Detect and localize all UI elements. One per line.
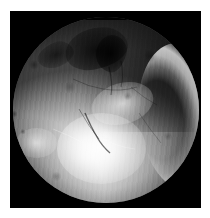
dark-fissure-cluster [62,23,131,73]
dark-crevice-left [33,36,77,72]
crescent-glare [130,38,198,196]
tissue-base-layer [13,17,199,203]
tissue-mottling [13,17,199,203]
top-rim-shadow [13,17,199,69]
specular-highlight-left [16,128,57,158]
bottom-left-shadow [13,113,113,202]
dark-crevice-deep [92,32,130,75]
specular-highlight-secondary [86,76,158,133]
endoscope-field-of-view [13,17,199,203]
letterbox-frame [10,11,201,208]
image-page [0,0,210,218]
rim-vignette [13,17,199,203]
shadowed-tissue-fold [83,17,198,132]
specular-highlight-main [57,113,146,184]
fissure-lines [13,17,199,203]
top-edge-clip [13,17,199,21]
fibrous-striations [13,17,199,203]
